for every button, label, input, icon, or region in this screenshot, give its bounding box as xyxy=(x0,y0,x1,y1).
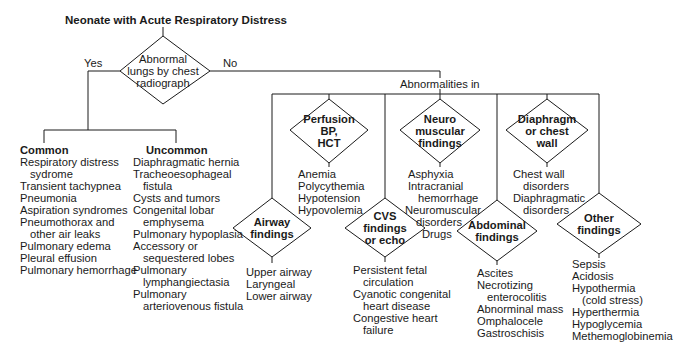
list-item: Hypotension xyxy=(298,192,365,204)
list-item: Congestive heart xyxy=(353,312,451,324)
diamond-label-line: findings xyxy=(415,137,465,149)
list-item: Cysts and tumors xyxy=(133,192,243,204)
list-item: Pulmonary xyxy=(133,264,243,276)
diamond-label-line: findings xyxy=(577,224,621,236)
diamond-label-line: wall xyxy=(518,137,576,149)
list-item: enterocolitis xyxy=(477,291,563,303)
list-item: Polycythemia xyxy=(298,180,365,192)
list-item: disorders xyxy=(513,180,585,192)
list-item: Hyperthermia xyxy=(572,306,673,318)
list-item: (cold stress) xyxy=(572,294,673,306)
diamond-label-line: BP, xyxy=(303,125,355,137)
root-decision-label: Abnormal lungs by chest radiograph xyxy=(127,53,199,89)
list-item: Lower airway xyxy=(246,290,312,302)
list-item: Respiratory distress xyxy=(20,156,137,168)
cvs-label: CVS findings or echo xyxy=(363,210,407,246)
list-item: Anemia xyxy=(298,168,365,180)
root-decision-line: lungs by chest xyxy=(127,65,199,77)
list-item: Pleural effusion xyxy=(20,252,137,264)
diamond-label-line: Abdominal xyxy=(468,219,526,231)
list-item: Congenital lobar xyxy=(133,204,243,216)
root-decision-line: Abnormal xyxy=(127,53,199,65)
diamond-label-line: or chest xyxy=(518,125,576,137)
uncommon-header: Uncommon xyxy=(133,144,243,156)
list-item: Diaphragmatic xyxy=(513,192,585,204)
list-item: Persistent fetal xyxy=(353,264,451,276)
list-item: Pneumothorax and xyxy=(20,216,137,228)
list-item: sequestered lobes xyxy=(133,252,243,264)
list-item: Pulmonary hypoplasia xyxy=(133,228,243,240)
list-item: disorders xyxy=(513,204,585,216)
list-item: Methemoglobinemia xyxy=(572,330,673,342)
abdominal-list: Ascites Necrotizing enterocolitis Abnorm… xyxy=(477,267,563,339)
list-item: Upper airway xyxy=(246,266,312,278)
diamond-label-line: CVS xyxy=(363,210,407,222)
cvs-list: Persistent fetal circulation Cyanotic co… xyxy=(353,264,451,336)
list-item: failure xyxy=(353,324,451,336)
list-item: Transient tachypnea xyxy=(20,180,137,192)
list-item: Hypovolemia xyxy=(298,204,365,216)
root-decision-line: radiograph xyxy=(127,77,199,89)
diaphragm-label: Diaphragm or chest wall xyxy=(518,113,576,149)
list-item: Chest wall xyxy=(513,168,585,180)
diamond-label-line: findings xyxy=(363,222,407,234)
neuro-label: Neuro muscular findings xyxy=(415,113,465,149)
abnormalities-label: Abnormalities in xyxy=(400,78,480,90)
diamond-label-line: Perfusion xyxy=(303,113,355,125)
list-item: Ascites xyxy=(477,267,563,279)
list-item: Acidosis xyxy=(572,270,673,282)
uncommon-causes-list: Uncommon Diaphragmatic hernia Tracheoeso… xyxy=(133,144,243,312)
list-item: Intracranial xyxy=(408,180,481,192)
diamond-label-line: Diaphragm xyxy=(518,113,576,125)
list-item: other air leaks xyxy=(20,228,137,240)
airway-list: Upper airway Laryngeal Lower airway xyxy=(246,266,312,302)
diaphragm-list: Chest wall disorders Diaphragmatic disor… xyxy=(513,168,585,216)
list-item: Cyanotic congenital xyxy=(353,288,451,300)
diamond-label-line: findings xyxy=(468,231,526,243)
diamond-label-line: Other xyxy=(577,212,621,224)
list-item: Abnorminal mass xyxy=(477,303,563,315)
diamond-label-line: Neuro xyxy=(415,113,465,125)
perfusion-label: Perfusion BP, HCT xyxy=(303,113,355,149)
other-list: Sepsis Acidosis Hypothermia (cold stress… xyxy=(572,258,673,342)
list-item: hemorrhage xyxy=(408,192,481,204)
list-item: Neuromuscular xyxy=(405,204,481,216)
list-item: Aspiration syndromes xyxy=(20,204,137,216)
list-item: Gastroschisis xyxy=(477,327,563,339)
list-item: Necrotizing xyxy=(477,279,563,291)
list-item: arteriovenous fistula xyxy=(133,300,243,312)
list-item: Pulmonary edema xyxy=(20,240,137,252)
perfusion-list: Anemia Polycythemia Hypotension Hypovole… xyxy=(298,168,365,216)
diamond-label-line: HCT xyxy=(303,137,355,149)
yes-label: Yes xyxy=(84,57,102,69)
common-causes-list: Common Respiratory distress sydrome Tran… xyxy=(20,144,137,276)
diamond-label-line: Airway xyxy=(250,216,294,228)
diamond-label-line: findings xyxy=(250,228,294,240)
list-item: Hypothermia xyxy=(572,282,673,294)
list-item: Tracheoesophageal xyxy=(133,168,243,180)
list-item: Pulmonary hemorrhage xyxy=(20,264,137,276)
diamond-label-line: or echo xyxy=(363,234,407,246)
airway-label: Airway findings xyxy=(250,216,294,240)
no-label: No xyxy=(223,57,237,69)
list-item: Laryngeal xyxy=(246,278,312,290)
list-item: Asphyxia xyxy=(408,168,481,180)
list-item: lymphangiectasia xyxy=(133,276,243,288)
list-item: Pulmonary xyxy=(133,288,243,300)
list-item: Hypoglycemia xyxy=(572,318,673,330)
other-label: Other findings xyxy=(577,212,621,236)
diamond-label-line: muscular xyxy=(415,125,465,137)
list-item: Omphalocele xyxy=(477,315,563,327)
common-header: Common xyxy=(20,144,137,156)
abdominal-label: Abdominal findings xyxy=(468,219,526,243)
list-item: Diaphragmatic hernia xyxy=(133,156,243,168)
list-item: circulation xyxy=(353,276,451,288)
list-item: Sepsis xyxy=(572,258,673,270)
list-item: emphysema xyxy=(133,216,243,228)
list-item: Accessory or xyxy=(133,240,243,252)
list-item: Pneumonia xyxy=(20,192,137,204)
list-item: sydrome xyxy=(20,168,137,180)
list-item: heart disease xyxy=(353,300,451,312)
chart-title: Neonate with Acute Respiratory Distress xyxy=(65,14,287,26)
list-item: fistula xyxy=(133,180,243,192)
